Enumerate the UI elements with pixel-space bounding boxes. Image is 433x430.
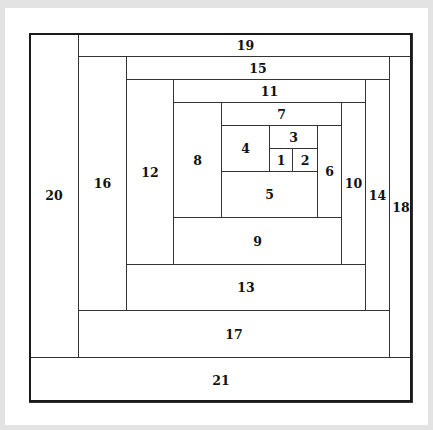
outer-frame bbox=[29, 33, 412, 402]
